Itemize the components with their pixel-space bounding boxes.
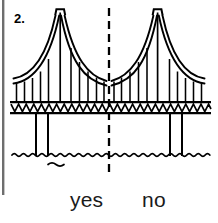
answer-option-yes[interactable]: yes <box>70 188 103 212</box>
answer-option-no[interactable]: no <box>142 188 166 212</box>
bridge-deck-group <box>10 102 211 113</box>
question-number: 2. <box>14 11 25 26</box>
answer-options: yes no <box>0 188 218 218</box>
deck-truss-zigzag <box>11 104 211 111</box>
worksheet-page: 2. yes no <box>0 0 218 223</box>
water-line <box>12 154 210 157</box>
small-wave-ripple <box>48 163 64 166</box>
